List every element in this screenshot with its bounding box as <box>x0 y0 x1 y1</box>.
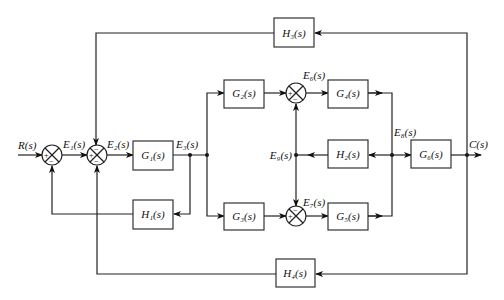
block-g1-label: G₁(s) <box>141 149 165 162</box>
e6-label: E₆(s) <box>302 69 325 82</box>
block-g5-label: G₅(s) <box>336 210 360 223</box>
summing-junction-1: + − <box>42 145 62 166</box>
summing-junction-6: + − <box>286 83 306 104</box>
output-label: C(s) <box>469 138 488 151</box>
block-h4-label: H₄(s) <box>282 267 307 280</box>
s1-minus-sign: − <box>49 157 54 166</box>
block-g2-label: G₂(s) <box>232 87 256 100</box>
g4-out-line <box>368 93 392 155</box>
g3-feed-line <box>207 155 224 216</box>
e2-label: E₂(s) <box>106 138 129 151</box>
input-label: R(s) <box>17 139 37 152</box>
s2-bottom-minus-sign: − <box>94 157 99 166</box>
block-h1-label: H₁(s) <box>140 208 165 221</box>
e3-label: E₃(s) <box>175 138 198 151</box>
block-diagram: R(s) + − E₁(s) + − − E₂(s) G₁(s) E₃(s) H… <box>0 0 504 300</box>
block-h2-label: H₂(s) <box>335 148 360 161</box>
s2-top-minus-sign: − <box>94 145 99 154</box>
summing-junction-2: + − − <box>87 145 107 166</box>
block-g3-label: G₃(s) <box>232 210 256 223</box>
s6-minus-sign: − <box>293 95 298 104</box>
block-g6-label: G₆(s) <box>419 148 443 161</box>
e9-label: E₉(s) <box>269 149 292 162</box>
g2-feed-line <box>207 93 224 155</box>
h1-feedback-line <box>52 166 133 214</box>
e8-label: E₈(s) <box>393 126 416 139</box>
block-g4-label: G₄(s) <box>336 87 360 100</box>
block-h3-label: H₃(s) <box>281 27 306 40</box>
e1-label: E₁(s) <box>62 138 85 151</box>
summing-junction-7: + − <box>286 206 306 226</box>
h1-feed-line <box>174 155 190 214</box>
g5-out-line <box>368 155 392 216</box>
e7-label: E₇(s) <box>302 196 325 209</box>
s7-minus-sign: − <box>293 206 298 215</box>
